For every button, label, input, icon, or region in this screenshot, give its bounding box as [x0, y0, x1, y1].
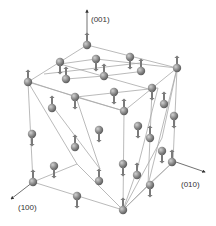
atom-sphere-icon	[92, 55, 100, 63]
atom-sphere-icon	[119, 206, 127, 214]
bond-line	[60, 59, 96, 64]
atom-with-spin-down	[110, 88, 118, 105]
spin-arrowhead-icon	[121, 99, 126, 102]
atom-sphere-icon	[71, 143, 79, 151]
atom-sphere-icon	[137, 67, 145, 75]
atom-with-spin-up	[168, 150, 176, 167]
atom-with-spin-up	[173, 56, 181, 73]
atom-sphere-icon	[83, 41, 91, 49]
atom-with-spin-up	[133, 163, 141, 180]
spin-arrowhead-icon	[72, 107, 77, 110]
atom-with-spin-down	[71, 93, 79, 110]
atom-sphere-icon	[100, 72, 108, 80]
atom-with-spin-up	[120, 99, 128, 116]
atom-sphere-icon	[95, 177, 103, 185]
atom-sphere-icon	[29, 178, 37, 186]
spin-arrowhead-icon	[93, 69, 98, 72]
spin-arrowhead-icon	[63, 67, 68, 70]
atom-sphere-icon	[119, 160, 127, 168]
axis-label-010: (010)	[181, 181, 200, 189]
spin-arrowhead-icon	[57, 72, 62, 75]
bond-line	[66, 76, 104, 79]
spin-arrowhead-icon	[25, 70, 30, 73]
atom-with-spin-down	[146, 181, 154, 198]
spin-arrowhead-icon	[174, 56, 179, 59]
atom-with-spin-down	[95, 126, 103, 143]
atom-sphere-icon	[71, 93, 79, 101]
atom-sphere-icon	[146, 134, 154, 142]
atom-sphere-icon	[50, 162, 58, 170]
spin-arrowhead-icon	[101, 64, 106, 67]
spin-arrowhead-icon	[74, 206, 79, 209]
atom-sphere-icon	[173, 64, 181, 72]
atom-with-spin-down	[50, 162, 58, 179]
atom-with-spin-up	[62, 67, 70, 84]
atom-with-spin-up	[95, 169, 103, 186]
atom-with-spin-up	[48, 96, 56, 113]
spin-arrowhead-icon	[49, 96, 54, 99]
atom-sphere-icon	[148, 84, 156, 92]
atom-with-spin-up	[137, 59, 145, 76]
axis-label-001: (001)	[91, 16, 110, 24]
atom-with-spin-up	[83, 33, 91, 50]
spin-arrowhead-icon	[171, 126, 176, 129]
atom-sphere-icon	[170, 112, 178, 120]
bond-line	[123, 185, 148, 210]
atom-with-spin-down	[92, 55, 100, 72]
atom-sphere-icon	[146, 181, 154, 189]
atom-with-spin-up	[100, 64, 108, 81]
bond-line	[54, 108, 100, 169]
spin-arrowhead-icon	[127, 67, 132, 70]
atom-with-spin-down	[148, 84, 156, 101]
atom-sphere-icon	[126, 53, 134, 61]
crystal-lattice-diagram	[0, 0, 216, 226]
atom-sphere-icon	[24, 78, 32, 86]
atom-sphere-icon	[168, 158, 176, 166]
spin-arrowhead-icon	[120, 198, 125, 201]
atom-with-spin-down	[158, 147, 166, 164]
atom-with-spin-up	[29, 170, 37, 187]
bond-line	[76, 97, 124, 111]
spin-arrowhead-icon	[51, 176, 56, 179]
atom-sphere-icon	[62, 75, 70, 83]
spin-arrowhead-icon	[120, 174, 125, 177]
spin-arrowhead-icon	[96, 169, 101, 172]
atom-with-spin-up	[71, 135, 79, 152]
spin-arrowhead-icon	[149, 98, 154, 101]
spin-arrowhead-icon	[159, 161, 164, 164]
atom-sphere-icon	[120, 107, 128, 115]
crystal-axes	[11, 10, 205, 199]
spin-arrowhead-icon	[147, 195, 152, 198]
atom-with-spin-up	[160, 92, 168, 109]
axis-arrow-icon	[173, 161, 205, 172]
atom-with-spin-down	[134, 122, 142, 139]
atom-with-spin-up	[146, 126, 154, 143]
atom-with-spin-up	[24, 70, 32, 87]
lattice-bonds	[28, 45, 177, 210]
atom-sphere-icon	[56, 58, 64, 66]
atom-with-spin-down	[28, 130, 36, 147]
spin-arrowhead-icon	[30, 170, 35, 173]
atom-sphere-icon	[134, 122, 142, 130]
spin-arrowhead-icon	[84, 33, 89, 36]
spin-arrowhead-icon	[29, 144, 34, 147]
atom-sphere-icon	[28, 130, 36, 138]
spin-arrowhead-icon	[135, 136, 140, 139]
atom-with-spin-down	[73, 192, 81, 209]
atom-with-spin-down	[126, 53, 134, 70]
bond-line	[30, 82, 76, 97]
spin-arrowhead-icon	[111, 102, 116, 105]
axis-label-100: (100)	[18, 204, 37, 212]
atom-sphere-icon	[110, 88, 118, 96]
atom-sphere-icon	[73, 192, 81, 200]
bond-line	[104, 72, 137, 76]
atom-sphere-icon	[95, 126, 103, 134]
spin-arrowhead-icon	[161, 92, 166, 95]
atom-with-spin-up	[119, 198, 127, 215]
atom-sphere-icon	[160, 100, 168, 108]
atom-sphere-icon	[133, 171, 141, 179]
atom-with-spin-down	[170, 112, 178, 129]
atom-with-spin-down	[119, 160, 127, 177]
atom-sphere-icon	[158, 147, 166, 155]
spin-arrowhead-icon	[72, 135, 77, 138]
